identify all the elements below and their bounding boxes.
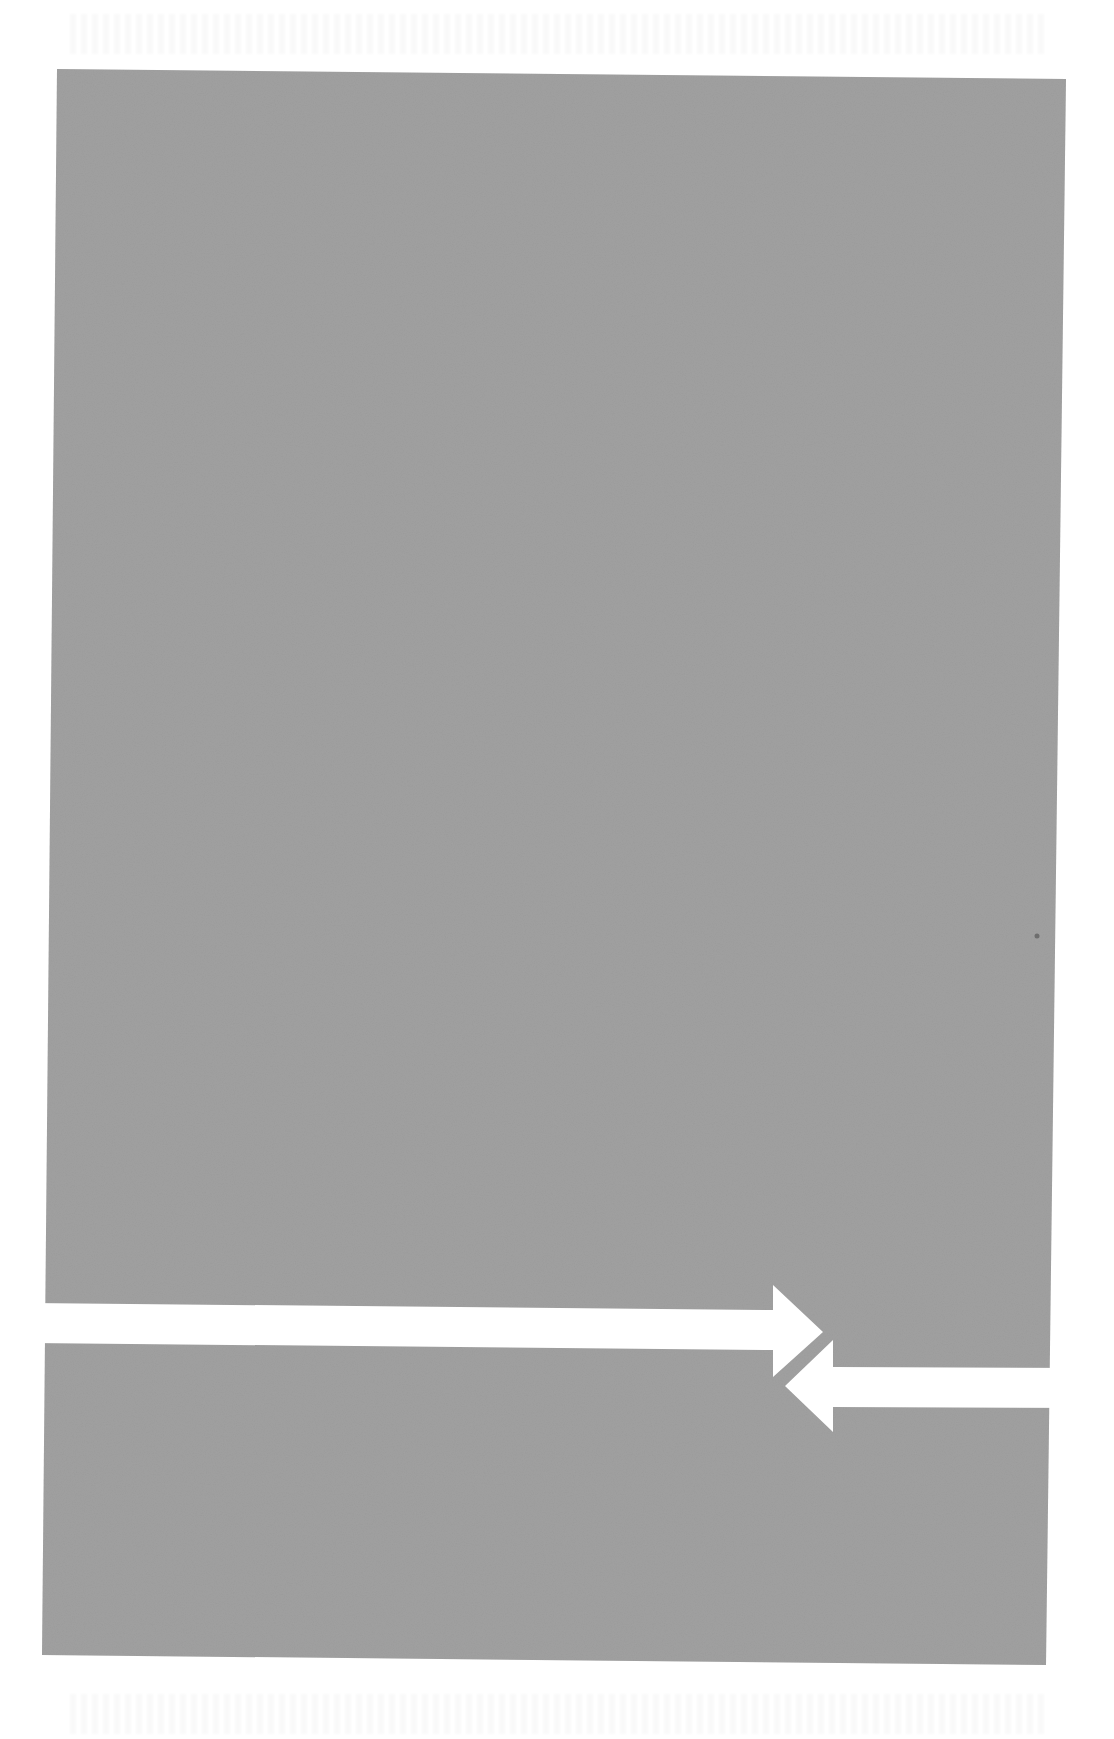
- gray-field: [42, 69, 1066, 1665]
- exchange-diagram: [0, 0, 1114, 1739]
- scan-speck: [1035, 934, 1040, 939]
- scanned-page: [0, 0, 1114, 1739]
